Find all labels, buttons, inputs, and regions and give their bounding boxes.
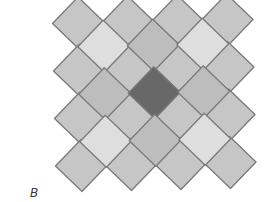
tilted-square-lattice (0, 0, 267, 202)
diagram-canvas (0, 0, 267, 202)
panel-label: B (30, 186, 38, 200)
